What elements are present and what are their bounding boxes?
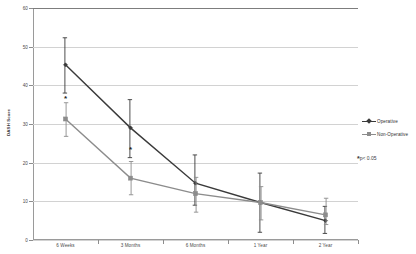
x-axis-tick-mark [358, 240, 359, 244]
y-axis-tick-mark [29, 47, 33, 48]
p-value-note: *p< 0.05 [357, 155, 377, 162]
y-axis-title: DASH Score [6, 101, 11, 145]
y-axis-tick-mark [29, 85, 33, 86]
y-axis-tick-label: 50 [2, 44, 28, 49]
legend-item-label: Non-Operative [377, 132, 408, 137]
y-axis-tick-label: 20 [2, 160, 28, 165]
legend-diamond-icon [362, 117, 376, 125]
gridline [33, 124, 358, 125]
gridline [33, 85, 358, 86]
x-axis-tick-mark [293, 240, 294, 244]
x-axis-tick-label: 6 Weeks [42, 243, 90, 248]
x-axis-tick-mark [228, 240, 229, 244]
legend-item-operative[interactable]: Operative [362, 116, 408, 126]
significance-star-6-weeks: * [64, 95, 67, 103]
dash-score-line-chart: 0102030405060 6 Weeks3 Months6 Months1 Y… [0, 0, 416, 254]
legend-square-icon [362, 130, 376, 138]
y-axis-tick-mark [29, 124, 33, 125]
y-axis-tick-label: 10 [2, 199, 28, 204]
x-axis-tick-label: 6 Months [172, 243, 220, 248]
legend-item-label: Operative [377, 119, 398, 124]
y-axis-tick-label: 60 [2, 6, 28, 11]
x-axis-tick-label: 2 Year [302, 243, 350, 248]
p-value-text: p< 0.05 [360, 155, 377, 161]
x-axis-tick-mark [163, 240, 164, 244]
y-axis-tick-label: 40 [2, 83, 28, 88]
y-axis-tick-mark [29, 201, 33, 202]
chart-legend: OperativeNon-Operative [362, 116, 408, 142]
legend-item-non-operative[interactable]: Non-Operative [362, 129, 408, 139]
x-axis-tick-mark [98, 240, 99, 244]
plot-top-border [33, 8, 358, 9]
x-axis-tick-label: 3 Months [107, 243, 155, 248]
gridline [33, 163, 358, 164]
significance-star-3-months: * [129, 146, 132, 154]
y-axis-tick-mark [29, 163, 33, 164]
x-axis-tick-label: 1 Year [237, 243, 285, 248]
gridline [33, 201, 358, 202]
y-axis-tick-mark [29, 8, 33, 9]
gridline [33, 47, 358, 48]
y-axis-tick-label: 0 [2, 238, 28, 243]
y-axis-tick-mark [29, 240, 33, 241]
gridline [33, 240, 358, 241]
